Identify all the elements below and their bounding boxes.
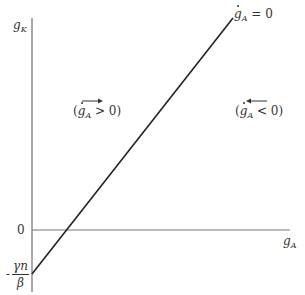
phase-diagram [0,0,305,295]
region-left-relation: > 0 [91,104,116,118]
y-axis-label: gK [13,19,27,34]
region-left-base: g [78,104,86,118]
arrow-left-icon [246,99,267,104]
intercept-denominator: β [12,275,29,290]
x-axis-label: gA [283,235,296,250]
line-label-base: g [234,7,242,21]
arrow-right-icon [82,99,103,104]
intercept-sign: - [6,268,10,280]
region-right-base: g [240,104,248,118]
region-right-label: (gA < 0) [235,105,283,120]
intercept-fraction: γn β [12,259,29,290]
x-axis-label-base: g [283,234,291,248]
ga-dot-zero-line [32,18,233,274]
line-label-rhs: = 0 [247,7,272,21]
region-right-relation: < 0 [253,104,278,118]
y-axis-label-base: g [13,18,21,32]
intercept-numerator: γn [12,259,29,275]
x-axis-label-sub: A [291,241,297,250]
line-label: gA = 0 [234,8,273,23]
origin-label: 0 [17,224,25,236]
region-left-label: (gA > 0) [73,105,121,120]
y-axis-label-sub: K [21,25,27,34]
